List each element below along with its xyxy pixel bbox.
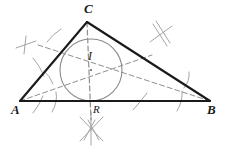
figure-canvas bbox=[0, 0, 228, 150]
construction-marks bbox=[16, 21, 189, 145]
construction-cross-bottom bbox=[80, 112, 103, 145]
angle-bisector-c bbox=[87, 22, 91, 120]
vertex-label-c: C bbox=[84, 2, 93, 15]
vertex-label-b: B bbox=[207, 103, 216, 116]
foot-point-label: R bbox=[93, 104, 100, 115]
construction-arcs-b bbox=[133, 72, 189, 111]
incenter-point bbox=[90, 69, 92, 71]
construction-cross-left bbox=[16, 36, 36, 54]
angle-bisector-b bbox=[38, 45, 210, 101]
side-cb bbox=[87, 22, 210, 101]
vertex-label-a: A bbox=[11, 103, 20, 116]
construction-cross-right bbox=[150, 21, 172, 46]
geometry-figure: C A B I R bbox=[0, 0, 228, 150]
incenter-label: I bbox=[88, 50, 92, 62]
angle-bisectors bbox=[20, 22, 210, 120]
